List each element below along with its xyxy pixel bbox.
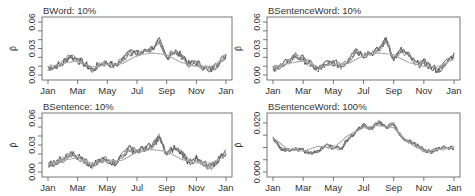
chart-panel: BSentenceWord: 10%JanMarMayJulSepNovJan0… — [233, 5, 462, 96]
x-tick-label: Jan — [40, 85, 55, 96]
x-tick-label: Sep — [158, 85, 175, 96]
panel-title: BWord: 10% — [43, 5, 97, 16]
y-tick-label: 0.03 — [252, 40, 262, 58]
y-tick-label: 0.020 — [252, 112, 262, 135]
plot-frame — [42, 113, 232, 177]
x-tick-label: Jan — [265, 85, 280, 96]
x-tick-label: Jan — [265, 182, 280, 193]
panel-title: BSentenceWord: 10% — [268, 5, 362, 16]
y-tick-label: 0.06 — [27, 109, 37, 127]
y-tick-label: 0.03 — [27, 40, 37, 58]
plot-frame — [267, 17, 460, 80]
y-tick-label: 0.000 — [252, 161, 262, 184]
x-tick-label: Sep — [385, 182, 402, 193]
x-tick-label: Jan — [446, 182, 461, 193]
y-axis-label: p̂ — [8, 46, 18, 51]
reference-line — [273, 125, 454, 151]
panel-title: BSentence: 10% — [43, 101, 114, 112]
chart-panel: BWord: 10%JanMarMayJulSepNovJan0.000.030… — [8, 5, 234, 96]
x-tick-label: Sep — [385, 85, 402, 96]
x-tick-label: Mar — [69, 182, 85, 193]
y-axis-label: p̂ — [8, 142, 18, 147]
y-tick-label: 0.00 — [27, 163, 37, 181]
x-tick-label: May — [324, 182, 342, 193]
x-tick-label: Jan — [40, 182, 55, 193]
x-tick-label: Jan — [218, 85, 233, 96]
x-tick-label: Jul — [357, 182, 369, 193]
x-tick-label: May — [324, 85, 342, 96]
y-tick-label: 0.00 — [252, 66, 262, 84]
y-tick-label: 0.06 — [27, 13, 37, 31]
x-tick-label: Mar — [295, 182, 311, 193]
series-line — [273, 40, 454, 73]
x-tick-label: Jul — [357, 85, 369, 96]
x-tick-label: Jul — [131, 85, 143, 96]
x-tick-label: Nov — [188, 182, 205, 193]
x-tick-label: Jan — [218, 182, 233, 193]
plot-frame — [267, 113, 460, 177]
series-line — [273, 122, 454, 154]
y-axis-label: p̂ — [233, 142, 243, 147]
chart-panel: BSentence: 10%JanMarMayJulSepNovJan0.000… — [8, 101, 234, 193]
y-axis-label: p̂ — [233, 46, 243, 51]
x-tick-label: Nov — [415, 182, 432, 193]
x-tick-label: Mar — [295, 85, 311, 96]
x-tick-label: Nov — [188, 85, 205, 96]
x-tick-label: Jan — [446, 85, 461, 96]
x-tick-label: May — [98, 85, 116, 96]
x-tick-label: Jul — [131, 182, 143, 193]
x-tick-label: Nov — [415, 85, 432, 96]
figure: BWord: 10%JanMarMayJulSepNovJan0.000.030… — [0, 0, 475, 196]
y-tick-label: 0.00 — [27, 66, 37, 84]
panel-title: BSentenceWord: 100% — [268, 101, 367, 112]
plot-frame — [42, 17, 232, 80]
x-tick-label: May — [98, 182, 116, 193]
y-tick-label: 0.06 — [252, 13, 262, 31]
chart-panel: BSentenceWord: 100%JanMarMayJulSepNovJan… — [233, 101, 462, 193]
x-tick-label: Sep — [158, 182, 175, 193]
y-tick-label: 0.03 — [27, 136, 37, 154]
x-tick-label: Mar — [69, 85, 85, 96]
